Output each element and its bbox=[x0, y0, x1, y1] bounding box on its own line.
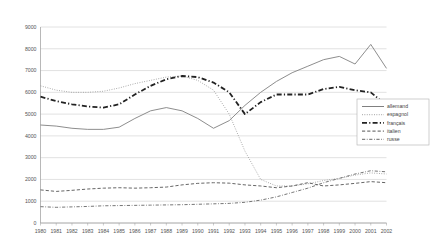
legend-label-russe: russe bbox=[387, 136, 400, 142]
x-tick-label: 1996 bbox=[286, 228, 298, 234]
x-tick-label: 1980 bbox=[35, 228, 47, 234]
x-axis-ticks bbox=[41, 223, 387, 226]
y-tick-label: 4000 bbox=[25, 133, 37, 139]
y-tick-label: 9000 bbox=[25, 24, 37, 30]
x-tick-label: 1990 bbox=[192, 228, 204, 234]
x-tick-label: 1995 bbox=[271, 228, 283, 234]
series-lines bbox=[41, 44, 387, 207]
x-tick-label: 1989 bbox=[176, 228, 188, 234]
legend-label-italien: italien bbox=[387, 128, 401, 134]
x-tick-label: 1984 bbox=[98, 228, 110, 234]
x-tick-label: 1983 bbox=[82, 228, 94, 234]
x-tick-label: 2000 bbox=[349, 228, 361, 234]
series-line-français bbox=[41, 76, 387, 114]
y-tick-label: 1000 bbox=[25, 198, 37, 204]
y-axis-tick-labels: 0100020003000400050006000700080009000 bbox=[25, 24, 37, 226]
chart-legend: allemandespagnolfrançaisitalienrusse bbox=[357, 99, 429, 145]
x-tick-label: 1982 bbox=[66, 228, 78, 234]
y-tick-label: 6000 bbox=[25, 89, 37, 95]
legend-label-allemand: allemand bbox=[387, 103, 408, 109]
legend-label-espagnol: espagnol bbox=[387, 111, 408, 117]
series-line-italien bbox=[41, 182, 387, 192]
y-tick-label: 2000 bbox=[25, 176, 37, 182]
x-tick-label: 1987 bbox=[145, 228, 157, 234]
y-tick-label: 5000 bbox=[25, 111, 37, 117]
x-tick-label: 1998 bbox=[318, 228, 330, 234]
x-axis-tick-labels: 1980198119821983198419851986198719881989… bbox=[35, 228, 393, 234]
x-tick-label: 1981 bbox=[50, 228, 62, 234]
x-tick-label: 1999 bbox=[334, 228, 346, 234]
x-tick-label: 1994 bbox=[255, 228, 267, 234]
x-tick-label: 1991 bbox=[208, 228, 220, 234]
chart-canvas: 0100020003000400050006000700080009000 19… bbox=[0, 0, 433, 249]
legend-label-français: français bbox=[387, 120, 406, 126]
x-tick-label: 1985 bbox=[113, 228, 125, 234]
y-tick-label: 8000 bbox=[25, 46, 37, 52]
series-line-allemand bbox=[41, 44, 387, 129]
gridlines bbox=[41, 27, 387, 223]
line-chart: 0100020003000400050006000700080009000 19… bbox=[0, 0, 433, 249]
x-tick-label: 1997 bbox=[302, 228, 314, 234]
x-tick-label: 1986 bbox=[129, 228, 141, 234]
x-tick-label: 1992 bbox=[223, 228, 235, 234]
axis-lines bbox=[41, 27, 387, 223]
x-tick-label: 2001 bbox=[365, 228, 377, 234]
x-tick-label: 1988 bbox=[161, 228, 173, 234]
y-tick-label: 3000 bbox=[25, 154, 37, 160]
y-tick-label: 7000 bbox=[25, 67, 37, 73]
y-tick-label: 0 bbox=[34, 220, 37, 226]
x-tick-label: 1993 bbox=[239, 228, 251, 234]
x-tick-label: 2002 bbox=[381, 228, 393, 234]
